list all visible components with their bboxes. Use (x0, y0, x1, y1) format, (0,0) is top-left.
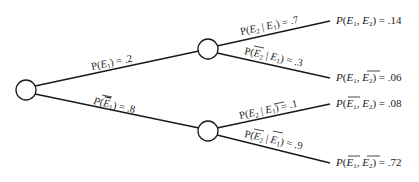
leaf-label-e1-not-e2: P(E1, E2) = .06 (335, 71, 402, 85)
root-node (16, 80, 36, 100)
edge-label-e1: P(E1) = .2 (90, 53, 134, 74)
node-not-e1 (198, 121, 218, 141)
edge-label-not-e2-given-e1: P(E2 | E1) = .3 (243, 45, 304, 70)
edge-label-not-e1: P(E1) = .8 (91, 95, 136, 117)
leaf-label-not-e1-not-e2: P(E1, E2) = .72 (335, 156, 402, 170)
leaf-label-not-e1-e2: P(E1, E2) = .08 (335, 97, 402, 111)
overline-mark (273, 131, 283, 133)
leaf-label-e1-e2: P(E1, E2) = .14 (335, 14, 402, 28)
node-e1 (198, 39, 218, 59)
edge-label-e2-given-not-e1: P(E2 | E1) = .1 (238, 98, 299, 123)
probability-tree: P(E1) = .2 P(E1) = .8 P(E2 | E1) = .7 P(… (0, 0, 419, 182)
